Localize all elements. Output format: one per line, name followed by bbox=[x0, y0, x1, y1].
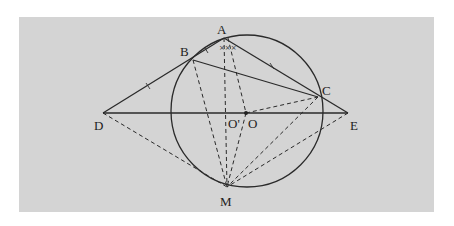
segment-dm bbox=[103, 113, 227, 187]
geometry-diagram: ××× A B C D E M O' O bbox=[0, 0, 454, 226]
segment-cm bbox=[227, 97, 318, 187]
circle-o bbox=[171, 35, 323, 187]
segment-bm bbox=[193, 60, 227, 187]
label-o: O bbox=[248, 116, 257, 131]
label-e: E bbox=[350, 118, 358, 133]
label-d: D bbox=[94, 118, 103, 133]
label-m: M bbox=[220, 194, 232, 209]
label-c: C bbox=[322, 83, 331, 98]
segment-ae bbox=[224, 38, 348, 113]
segment-bc bbox=[193, 60, 318, 97]
label-a: A bbox=[217, 22, 227, 37]
segment-o-c bbox=[246, 97, 318, 113]
label-b: B bbox=[180, 44, 189, 59]
label-o-prime: O' bbox=[228, 116, 240, 131]
point-o-dot bbox=[244, 111, 248, 115]
angle-mark-a: ××× bbox=[219, 44, 237, 52]
